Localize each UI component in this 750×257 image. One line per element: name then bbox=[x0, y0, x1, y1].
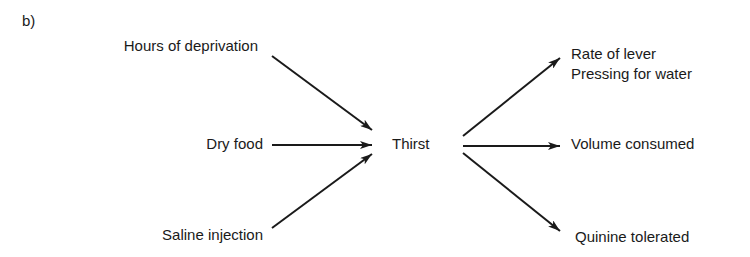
arrow-saline-to-thirst bbox=[272, 154, 372, 228]
arrow-thirst-to-lever bbox=[463, 58, 560, 136]
arrow-thirst-to-quinine bbox=[463, 153, 560, 231]
arrow-hours-to-thirst bbox=[272, 56, 372, 130]
arrows-layer bbox=[0, 0, 750, 257]
diagram-canvas: b) Hours of deprivation Dry food Saline … bbox=[0, 0, 750, 257]
